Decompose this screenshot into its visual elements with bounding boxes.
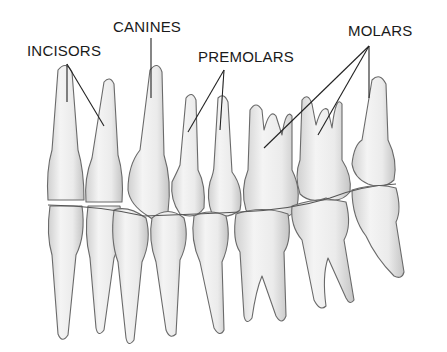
lower-molar-1 — [235, 210, 290, 322]
upper-molar-3 — [352, 77, 395, 186]
upper-incisor-1 — [48, 65, 85, 200]
lower-molar-2 — [292, 200, 354, 308]
upper-incisor-2 — [86, 79, 123, 202]
upper-premolar-2 — [208, 96, 241, 217]
teeth-diagram — [0, 0, 447, 352]
lower-premolar-1 — [151, 212, 187, 337]
upper-molar-2 — [297, 97, 350, 200]
lower-canine — [113, 209, 149, 344]
lower-premolar-2 — [193, 212, 228, 334]
lower-incisor-1 — [48, 206, 83, 339]
lower-molar-3 — [352, 185, 404, 277]
upper-molar-1 — [243, 105, 298, 217]
upper-canine — [128, 65, 169, 219]
